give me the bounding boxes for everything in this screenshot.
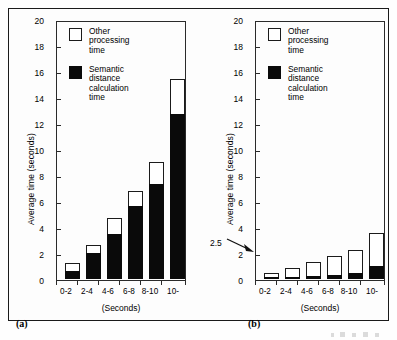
bar-b-6-8-semantic-segment xyxy=(327,275,342,279)
legend-swatch-other-icon-b xyxy=(268,28,281,41)
x-tick-a-1 xyxy=(77,281,78,285)
x-tick-a-4 xyxy=(140,281,141,285)
bar-b-2-4-semantic-segment xyxy=(285,277,300,279)
x-tick-a-5 xyxy=(161,281,162,285)
y-tick-a-10 xyxy=(57,151,61,152)
bar-a-0-2 xyxy=(65,263,80,279)
legend-item-semantic-a: Semantic distance calculation time xyxy=(69,65,129,103)
y-tick-b-16 xyxy=(256,73,260,74)
legend-item-other-b: Other processing time xyxy=(268,27,329,55)
y-tick-label-b-14: 14 xyxy=(223,94,243,104)
bar-b-0-2-semantic-segment xyxy=(264,277,279,279)
y-tick-label-b-20: 20 xyxy=(223,16,243,26)
y-tick-b-0 xyxy=(256,280,260,281)
x-tick-label-a-5: 10- xyxy=(161,287,185,296)
bar-b-8-10-semantic-segment xyxy=(348,273,363,279)
bar-b-4-6 xyxy=(306,262,321,279)
chart-panel-b: Average time (seconds) 20 18 16 14 12 10… xyxy=(198,0,397,340)
plot-area-b: Other processing time Semantic distance … xyxy=(255,21,385,281)
x-tick-b-1 xyxy=(276,281,277,285)
scan-speck-5 xyxy=(375,333,379,337)
x-tick-a-2 xyxy=(98,281,99,285)
y-tick-a-14 xyxy=(57,99,61,100)
plot-area-a: Other processing time Semantic distance … xyxy=(56,21,186,281)
bar-a-6-8-semantic-segment xyxy=(128,206,143,279)
y-tick-label-a-4: 4 xyxy=(24,224,44,234)
bar-a-4-6-semantic-segment xyxy=(107,234,122,280)
plot-top-border-a xyxy=(57,21,186,22)
y-tick-label-b-6: 6 xyxy=(223,198,243,208)
y-tick-a-8 xyxy=(57,177,61,178)
bar-b-0-2 xyxy=(264,273,279,279)
y-tick-label-b-12: 12 xyxy=(223,120,243,130)
y-tick-label-a-18: 18 xyxy=(24,42,44,52)
annotation-arrow-icon xyxy=(226,236,258,258)
y-tick-a-16 xyxy=(57,73,61,74)
legend-label-semantic-a: Semantic distance calculation time xyxy=(89,65,129,103)
scan-speck-1 xyxy=(331,333,334,337)
legend-swatch-semantic-icon-a xyxy=(69,66,82,79)
y-tick-a-0 xyxy=(57,280,61,281)
x-tick-a-6 xyxy=(185,281,186,285)
bar-b-10-plus-semantic-segment xyxy=(369,266,384,279)
x-tick-b-0 xyxy=(255,281,256,285)
bar-b-4-6-semantic-segment xyxy=(306,276,321,279)
scan-speck-3 xyxy=(352,333,356,337)
y-tick-b-20 xyxy=(256,21,260,22)
y-tick-label-a-0: 0 xyxy=(24,276,44,286)
bar-a-6-8 xyxy=(128,191,143,279)
legend-label-semantic-b: Semantic distance calculation time xyxy=(288,65,328,103)
bar-a-0-2-semantic-segment xyxy=(65,271,80,279)
y-tick-a-18 xyxy=(57,47,61,48)
y-tick-label-b-8: 8 xyxy=(223,172,243,182)
y-tick-label-a-6: 6 xyxy=(24,198,44,208)
panel-tag-a: (a) xyxy=(16,318,28,329)
legend-swatch-other-icon-a xyxy=(69,28,82,41)
y-tick-label-a-16: 16 xyxy=(24,68,44,78)
y-tick-label-b-18: 18 xyxy=(223,42,243,52)
bar-b-8-10 xyxy=(348,250,363,279)
x-tick-b-2 xyxy=(297,281,298,285)
panel-tag-b: (b) xyxy=(248,318,260,329)
x-tick-a-3 xyxy=(119,281,120,285)
y-tick-a-6 xyxy=(57,203,61,204)
y-tick-label-a-20: 20 xyxy=(24,16,44,26)
x-tick-a-0 xyxy=(56,281,57,285)
legend-swatch-semantic-icon-b xyxy=(268,66,281,79)
x-tick-label-b-5: 10- xyxy=(360,287,384,296)
y-tick-b-14 xyxy=(256,99,260,100)
y-tick-label-b-16: 16 xyxy=(223,68,243,78)
y-tick-label-a-10: 10 xyxy=(24,146,44,156)
plot-top-border-b xyxy=(256,21,385,22)
figure-page: Average time (seconds) 20 18 16 14 12 10… xyxy=(0,0,397,340)
chart-panel-a: Average time (seconds) 20 18 16 14 12 10… xyxy=(0,0,200,340)
bar-a-2-4 xyxy=(86,245,101,279)
x-tick-b-6 xyxy=(384,281,385,285)
y-tick-a-2 xyxy=(57,255,61,256)
y-tick-label-b-10: 10 xyxy=(223,146,243,156)
y-tick-label-b-0: 0 xyxy=(223,276,243,286)
y-tick-b-8 xyxy=(256,177,260,178)
x-tick-b-4 xyxy=(339,281,340,285)
legend-item-other-a: Other processing time xyxy=(69,27,130,55)
bar-b-2-4 xyxy=(285,268,300,279)
y-tick-a-4 xyxy=(57,229,61,230)
y-tick-label-b-4: 4 xyxy=(223,224,243,234)
y-tick-b-18 xyxy=(256,47,260,48)
y-tick-label-a-2: 2 xyxy=(24,250,44,260)
bar-a-4-6 xyxy=(107,218,122,279)
y-tick-b-4 xyxy=(256,229,260,230)
annotation-label-2-5: 2.5 xyxy=(210,238,222,248)
legend-label-other-a: Other processing time xyxy=(89,27,130,55)
y-tick-b-12 xyxy=(256,125,260,126)
x-axis-title-a: (Seconds) xyxy=(76,303,166,313)
bar-a-8-10-semantic-segment xyxy=(149,184,164,279)
x-tick-label-a-4: 8-10 xyxy=(136,287,164,296)
y-tick-label-a-14: 14 xyxy=(24,94,44,104)
legend-item-semantic-b: Semantic distance calculation time xyxy=(268,65,328,103)
bar-b-10-plus xyxy=(369,233,384,279)
bar-a-8-10 xyxy=(149,162,164,279)
y-tick-b-2 xyxy=(256,255,260,256)
scan-speck-2 xyxy=(340,332,345,337)
legend-label-other-b: Other processing time xyxy=(288,27,329,55)
